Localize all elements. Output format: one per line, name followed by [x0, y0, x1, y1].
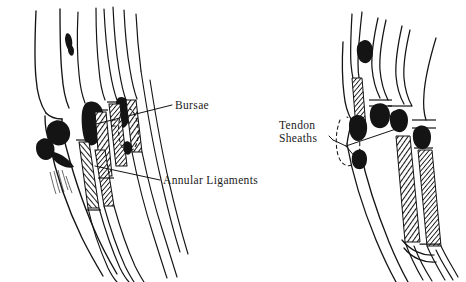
tendon-sheaths-leader-hook — [329, 136, 333, 140]
left-upper-ink-fleck-2 — [68, 45, 74, 56]
tendon-sheath-blob-5 — [413, 126, 431, 150]
anatomy-illustration-canvas — [0, 0, 466, 282]
label-bursae: Bursae — [175, 99, 209, 112]
left-limb-figure — [35, 7, 188, 282]
left-tendon-strands-upper — [77, 7, 141, 103]
tendon-sheath-blob-2 — [357, 40, 373, 63]
tendon-sheath-blob-3 — [370, 103, 390, 128]
left-joint-ink-wedge — [53, 152, 74, 168]
tendon-sheath-blob-1 — [349, 115, 367, 141]
right-limb-figure — [336, 12, 458, 282]
label-tendon-sheaths-line2: Sheaths — [279, 132, 317, 145]
left-texture-strokes — [50, 170, 72, 194]
tendon-sheath-blob-4 — [390, 109, 408, 132]
label-tendon-sheaths-line1: Tendon — [279, 119, 317, 132]
label-annular-ligaments: Annular Ligaments — [163, 174, 258, 187]
illustration-page: Bursae Annular Ligaments Tendon Sheaths — [0, 0, 466, 282]
label-tendon-sheaths: Tendon Sheaths — [279, 119, 317, 145]
tendon-sheaths-leader-stem — [333, 140, 346, 146]
right-hatched-bands-lower — [396, 136, 441, 246]
